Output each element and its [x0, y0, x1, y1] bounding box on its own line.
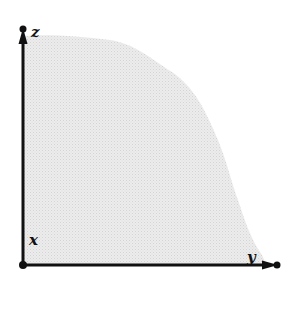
shaded-region — [24, 35, 266, 264]
origin-dot — [19, 261, 27, 269]
vertical-axis-end-dot — [20, 26, 27, 33]
z-axis-label: z — [31, 25, 40, 40]
horizontal-axis-end-dot — [274, 262, 281, 269]
y-axis-label: y — [247, 250, 256, 265]
x-axis-label: x — [29, 233, 38, 248]
diagram: z x y — [0, 0, 292, 309]
